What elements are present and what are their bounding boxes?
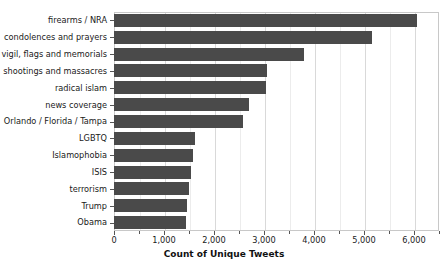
y-axis-tick-mark — [110, 88, 114, 89]
bar — [114, 199, 187, 212]
x-axis-tick-label: 3,000 — [252, 236, 275, 244]
y-axis-tick-label: news coverage — [0, 96, 110, 113]
y-axis-tick-label-text: Orlando / Florida / Tampa — [4, 117, 107, 125]
bar-chart-figure: firearms / NRAcondolences and prayersvig… — [0, 0, 448, 277]
bar-row — [114, 29, 439, 46]
y-axis-tick-mark — [110, 71, 114, 72]
bar-row — [114, 197, 439, 214]
y-axis-tick-label: Islamophobia — [0, 147, 110, 164]
y-axis-tick-mark — [110, 54, 114, 55]
y-axis-tick-label: firearms / NRA — [0, 12, 110, 29]
x-axis-minor-tick — [439, 231, 440, 234]
x-axis-minor-tick — [239, 231, 240, 234]
bar-row — [114, 12, 439, 29]
bar — [114, 216, 186, 229]
bar-row — [114, 214, 439, 231]
bar — [114, 98, 249, 111]
x-axis-minor-tick — [139, 231, 140, 234]
bar-row — [114, 63, 439, 80]
bar — [114, 132, 195, 145]
bar — [114, 31, 372, 44]
x-axis-tick-label: 4,000 — [302, 236, 325, 244]
y-axis-tick-label: shootings and massacres — [0, 63, 110, 80]
y-axis-tick-label-text: condolences and prayers — [4, 33, 107, 41]
bar-row — [114, 113, 439, 130]
bar — [114, 166, 191, 179]
y-axis-tick-label-text: LGBTQ — [79, 134, 107, 142]
y-axis-tick-label-text: vigil, flags and memorials — [1, 50, 107, 58]
y-axis-tick-label: LGBTQ — [0, 130, 110, 147]
y-axis-tick-label-text: Trump — [81, 202, 107, 210]
bar-row — [114, 96, 439, 113]
y-axis-tick-label: ISIS — [0, 164, 110, 181]
bar-row — [114, 79, 439, 96]
bar — [114, 14, 417, 27]
bar-row — [114, 46, 439, 63]
y-axis-tick-label-text: shootings and massacres — [3, 67, 107, 75]
y-axis-tick-mark — [110, 138, 114, 139]
x-axis-minor-tick — [339, 231, 340, 234]
y-axis-tick-label: Obama — [0, 214, 110, 231]
bar-row — [114, 130, 439, 147]
y-axis-tick-label-text: ISIS — [92, 168, 107, 176]
bar — [114, 182, 189, 195]
y-axis-tick-label: Orlando / Florida / Tampa — [0, 113, 110, 130]
bar-row — [114, 147, 439, 164]
y-axis-category-labels: firearms / NRAcondolences and prayersvig… — [0, 12, 110, 231]
y-axis-tick-label: Trump — [0, 197, 110, 214]
x-axis-tick-label: 5,000 — [352, 236, 375, 244]
y-axis-tick-mark — [110, 122, 114, 123]
y-axis-tick-label: vigil, flags and memorials — [0, 46, 110, 63]
x-axis-minor-tick — [289, 231, 290, 234]
bar — [114, 149, 193, 162]
y-axis-tick-mark — [110, 155, 114, 156]
x-axis-tick-label: 6,000 — [402, 236, 425, 244]
y-axis-tick-label-text: Islamophobia — [52, 151, 107, 159]
y-axis-tick-mark — [110, 189, 114, 190]
y-axis-tick-label-text: news coverage — [45, 101, 107, 109]
y-axis-tick-label-text: firearms / NRA — [48, 16, 107, 24]
x-axis-minor-tick — [189, 231, 190, 234]
bar-row — [114, 164, 439, 181]
y-axis-tick-mark — [110, 20, 114, 21]
y-axis-tick-mark — [110, 206, 114, 207]
y-axis-tick-mark — [110, 223, 114, 224]
bar — [114, 48, 304, 61]
bar — [114, 115, 243, 128]
y-axis-tick-label: terrorism — [0, 180, 110, 197]
x-axis-title: Count of Unique Tweets — [0, 250, 448, 259]
y-axis-tick-label-text: Obama — [77, 218, 107, 226]
bars-layer — [114, 12, 439, 231]
x-axis-tick-label: 1,000 — [152, 236, 175, 244]
y-axis-tick-mark — [110, 105, 114, 106]
y-axis-tick-label: radical islam — [0, 79, 110, 96]
y-axis-tick-label-text: terrorism — [69, 185, 107, 193]
x-axis-minor-tick — [389, 231, 390, 234]
bar — [114, 81, 266, 94]
bar — [114, 64, 267, 77]
y-axis-tick-label-text: radical islam — [55, 84, 107, 92]
y-axis-tick-mark — [110, 37, 114, 38]
bar-row — [114, 180, 439, 197]
x-axis-tick-label: 0 — [111, 236, 116, 244]
y-axis-tick-mark — [110, 172, 114, 173]
y-axis-tick-label: condolences and prayers — [0, 29, 110, 46]
x-axis-tick-label: 2,000 — [202, 236, 225, 244]
